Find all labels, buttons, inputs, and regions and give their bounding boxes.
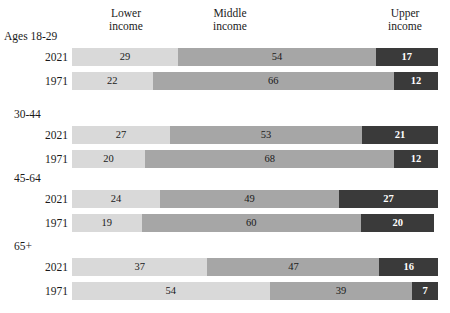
stacked-bar: 206812 xyxy=(72,150,438,168)
bar-segment-middle: 60 xyxy=(142,214,362,232)
stacked-bar: 295417 xyxy=(72,48,438,66)
bar-segment-value: 16 xyxy=(403,258,414,276)
bar-segment-lower: 20 xyxy=(72,150,145,168)
group-label: Ages 18-29 xyxy=(4,30,57,42)
bar-segment-value: 17 xyxy=(402,48,413,66)
row-label-year: 1971 xyxy=(0,216,68,230)
chart-row: 1971226612 xyxy=(0,72,450,90)
bar-segment-value: 12 xyxy=(411,72,422,90)
bar-segment-value: 54 xyxy=(272,48,283,66)
stacked-bar: 275321 xyxy=(72,126,438,144)
bar-segment-value: 54 xyxy=(166,282,177,300)
bar-segment-lower: 37 xyxy=(72,258,207,276)
row-label-year: 1971 xyxy=(0,152,68,166)
row-label-year: 2021 xyxy=(0,192,68,206)
bar-segment-middle: 66 xyxy=(153,72,395,90)
bar-segment-upper: 21 xyxy=(362,126,438,144)
column-header-middle-income-line1: Middle xyxy=(190,7,270,20)
bar-segment-value: 27 xyxy=(116,126,127,144)
row-label-year: 1971 xyxy=(0,284,68,298)
bar-segment-lower: 19 xyxy=(72,214,142,232)
bar-segment-value: 20 xyxy=(103,150,114,168)
stacked-bar: 54397 xyxy=(72,282,438,300)
bar-segment-value: 53 xyxy=(261,126,272,144)
stacked-bar: 244927 xyxy=(72,190,438,208)
group-label: 65+ xyxy=(14,240,32,252)
column-header-upper-income-line1: Upper xyxy=(365,7,445,20)
group-label: 30-44 xyxy=(14,108,41,120)
row-label-year: 2021 xyxy=(0,260,68,274)
bar-segment-upper: 12 xyxy=(394,150,438,168)
bar-segment-lower: 22 xyxy=(72,72,153,90)
bar-segment-middle: 39 xyxy=(270,282,413,300)
bar-segment-value: 49 xyxy=(244,190,255,208)
stacked-bar: 226612 xyxy=(72,72,438,90)
row-label-year: 1971 xyxy=(0,74,68,88)
bar-segment-upper: 17 xyxy=(376,48,438,66)
stacked-bar: 196020 xyxy=(72,214,438,232)
bar-segment-lower: 24 xyxy=(72,190,160,208)
chart-group: 65+2021374716197154397 xyxy=(0,240,450,300)
row-label-year: 2021 xyxy=(0,50,68,64)
bar-segment-upper: 27 xyxy=(339,190,438,208)
bar-segment-value: 60 xyxy=(246,214,257,232)
chart-row: 2021374716 xyxy=(0,258,450,276)
chart-row: 1971206812 xyxy=(0,150,450,168)
bar-segment-upper: 20 xyxy=(361,214,434,232)
chart-row: 2021244927 xyxy=(0,190,450,208)
chart-row: 197154397 xyxy=(0,282,450,300)
bar-segment-middle: 53 xyxy=(170,126,362,144)
stacked-bar-chart: Lower income Middle income Upper income … xyxy=(0,0,450,313)
bar-segment-lower: 54 xyxy=(72,282,270,300)
chart-row: 2021275321 xyxy=(0,126,450,144)
bar-segment-value: 37 xyxy=(134,258,145,276)
column-header-lower-income-line1: Lower xyxy=(86,7,166,20)
chart-group: Ages 18-2920212954171971226612 xyxy=(0,30,450,90)
bar-segment-value: 47 xyxy=(288,258,299,276)
bar-segment-middle: 54 xyxy=(178,48,376,66)
bar-segment-lower: 27 xyxy=(72,126,170,144)
chart-group: 45-6420212449271971196020 xyxy=(0,172,450,232)
bar-segment-value: 66 xyxy=(268,72,279,90)
bar-segment-lower: 29 xyxy=(72,48,178,66)
bar-segment-upper: 16 xyxy=(379,258,438,276)
bar-segment-upper: 12 xyxy=(394,72,438,90)
bar-segment-value: 7 xyxy=(423,282,428,300)
chart-row: 2021295417 xyxy=(0,48,450,66)
group-label: 45-64 xyxy=(14,172,41,184)
bar-segment-value: 19 xyxy=(102,214,113,232)
chart-group: 30-4420212753211971206812 xyxy=(0,108,450,168)
bar-segment-value: 27 xyxy=(383,190,394,208)
bar-segment-value: 29 xyxy=(120,48,131,66)
bar-segment-value: 68 xyxy=(264,150,275,168)
bar-segment-upper: 7 xyxy=(412,282,438,300)
row-label-year: 2021 xyxy=(0,128,68,142)
bar-segment-value: 21 xyxy=(395,126,406,144)
chart-row: 1971196020 xyxy=(0,214,450,232)
bar-segment-middle: 49 xyxy=(160,190,339,208)
bar-segment-value: 39 xyxy=(336,282,347,300)
bar-segment-value: 22 xyxy=(107,72,118,90)
bar-segment-value: 12 xyxy=(411,150,422,168)
stacked-bar: 374716 xyxy=(72,258,438,276)
bar-segment-middle: 47 xyxy=(207,258,379,276)
bar-segment-value: 20 xyxy=(392,214,403,232)
bar-segment-middle: 68 xyxy=(145,150,394,168)
bar-segment-value: 24 xyxy=(111,190,122,208)
